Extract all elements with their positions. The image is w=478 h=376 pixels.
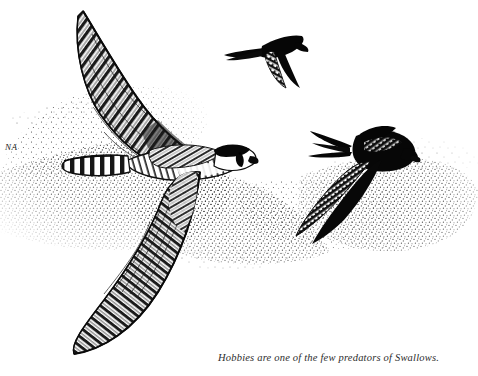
figure-caption: Hobbies are one of the few predators of … — [218, 352, 474, 364]
artist-signature: NA — [5, 142, 17, 152]
bird-illustration-artwork — [0, 0, 478, 376]
illustration-plate: NA Hobbies are one of the few predators … — [0, 0, 478, 376]
